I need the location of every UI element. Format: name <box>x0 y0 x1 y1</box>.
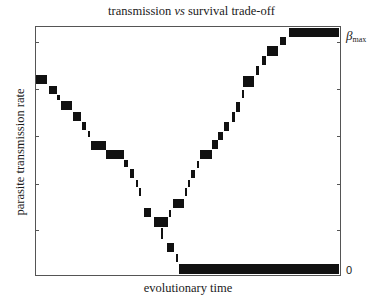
x-axis-label: evolutionary time <box>35 281 341 296</box>
right-axis-tick <box>337 136 340 137</box>
declining-branch-block <box>124 160 128 167</box>
declining-branch-block <box>49 86 57 95</box>
declining-branch-block <box>154 217 168 227</box>
declining-branch-block <box>176 254 178 262</box>
rising-branch-block <box>289 28 339 37</box>
right-axis-tick <box>337 184 340 185</box>
declining-branch-block <box>61 101 72 110</box>
rising-branch-block <box>191 170 195 178</box>
declining-branch-block <box>139 188 141 196</box>
title-text-post: survival trade-off <box>185 4 275 18</box>
rising-branch-block <box>185 188 187 196</box>
chart-title: transmission vs survival trade-off <box>0 4 383 19</box>
left-axis-tick <box>36 230 39 231</box>
rising-branch-block <box>236 102 240 112</box>
y-axis-label: parasite transmission rate <box>13 88 28 215</box>
declining-branch-block <box>36 75 47 84</box>
rising-branch-block <box>262 56 266 65</box>
title-text-italic: vs <box>174 4 184 18</box>
declining-branch-block <box>136 180 138 187</box>
rising-branch-block <box>218 132 223 140</box>
rising-branch-block <box>169 210 171 218</box>
beta-max-label: βmax <box>346 28 366 44</box>
declining-branch-block <box>144 208 151 218</box>
left-axis-tick <box>36 184 39 185</box>
declining-branch-block <box>179 264 339 274</box>
right-axis-tick <box>337 230 340 231</box>
rising-branch-block <box>200 150 212 159</box>
declining-branch-block <box>161 228 163 239</box>
rising-branch-block <box>197 161 199 168</box>
rising-branch-block <box>243 76 254 87</box>
left-axis-tick <box>36 136 39 137</box>
rising-branch-block <box>212 140 218 149</box>
declining-branch-block <box>91 141 106 150</box>
declining-branch-block <box>106 150 124 159</box>
declining-branch-block <box>82 122 86 130</box>
rising-branch-block <box>224 122 229 131</box>
declining-branch-block <box>88 131 90 137</box>
rising-branch-block <box>242 90 244 98</box>
declining-branch-block <box>73 112 81 121</box>
rising-branch-block <box>188 180 190 187</box>
left-axis-tick <box>36 42 39 43</box>
plot-area <box>35 26 341 276</box>
rising-branch-block <box>256 66 259 75</box>
declining-branch-block <box>130 169 134 178</box>
right-axis-tick <box>337 42 340 43</box>
rising-branch-block <box>232 112 235 122</box>
rising-branch-block <box>267 46 278 56</box>
declining-branch-block <box>57 95 60 100</box>
rising-branch-block <box>173 199 184 208</box>
right-axis-tick <box>337 89 340 90</box>
zero-label: 0 <box>346 264 352 276</box>
rising-branch-block <box>280 37 286 45</box>
declining-branch-block <box>167 243 174 252</box>
left-axis-tick <box>36 89 39 90</box>
beta-subscript: max <box>352 35 366 44</box>
title-text-pre: transmission <box>108 4 174 18</box>
